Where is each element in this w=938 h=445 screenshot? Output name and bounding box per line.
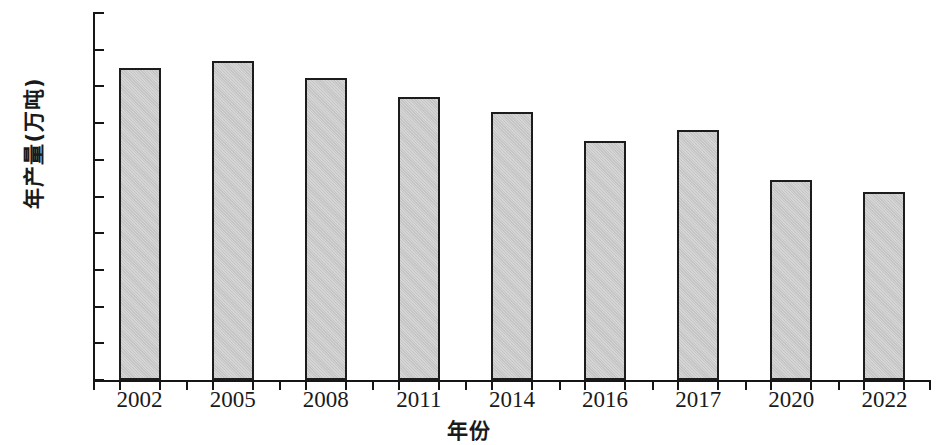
bar-2020 bbox=[770, 180, 812, 380]
bar-2002 bbox=[119, 68, 161, 380]
x-axis-line bbox=[93, 380, 931, 382]
x-axis-title: 年份 bbox=[0, 414, 938, 444]
plot-area bbox=[93, 13, 931, 380]
bars-layer bbox=[93, 13, 931, 380]
y-axis-title: 年产量(万吨) bbox=[17, 53, 47, 233]
bar-2005 bbox=[212, 61, 254, 380]
bar-2017 bbox=[677, 130, 719, 380]
bar-chart: 年产量(万吨) 050100150200250300350400450500 2… bbox=[0, 0, 938, 445]
bar-2016 bbox=[584, 141, 626, 380]
bar-2022 bbox=[863, 192, 905, 380]
bar-2011 bbox=[398, 97, 440, 380]
bar-2008 bbox=[305, 78, 347, 380]
x-axis-tick-label: 2022 bbox=[824, 387, 938, 413]
bar-2014 bbox=[491, 112, 533, 380]
